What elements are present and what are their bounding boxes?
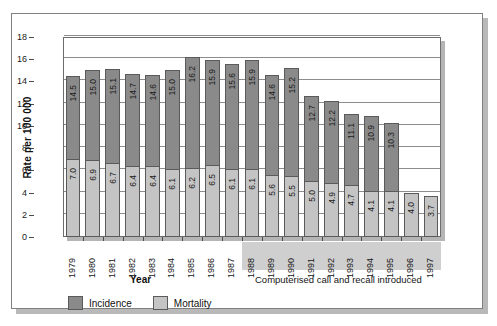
bar-mortality: 4.1	[384, 191, 399, 237]
legend-label: Mortality	[174, 298, 212, 309]
x-tick-mark	[123, 237, 124, 241]
bar-value-label: 6.2	[187, 177, 197, 189]
bar-group: 4.0	[404, 37, 419, 237]
x-tick-mark	[242, 237, 243, 241]
bar-value-label: 15.0	[88, 79, 98, 96]
bar-value-label: 11.1	[346, 123, 356, 139]
bar-value-label: 6.4	[148, 175, 158, 187]
bar-value-label: 4.1	[386, 200, 396, 212]
bar-group: 14.66.4	[145, 37, 160, 237]
bar-group: 15.96.5	[205, 37, 220, 237]
bar-mortality: 6.4	[145, 166, 160, 237]
bar-mortality: 6.9	[85, 160, 100, 237]
legend-swatch	[153, 296, 168, 310]
bar-mortality: 6.7	[105, 163, 120, 237]
bar-mortality: 4.7	[344, 185, 359, 237]
x-tick-mark	[421, 237, 422, 241]
bar-mortality: 6.1	[165, 169, 180, 237]
gridline	[64, 35, 440, 36]
x-tick-mark	[182, 237, 183, 241]
bar-value-label: 16.2	[187, 66, 197, 83]
x-tick-mark	[322, 237, 323, 241]
x-tick-mark	[342, 237, 343, 241]
bar-value-label: 14.7	[128, 83, 138, 100]
x-tick-mark	[83, 237, 84, 241]
bar-group: 14.65.6	[265, 37, 280, 237]
bar-mortality: 6.1	[225, 169, 240, 237]
bar-group: 14.57.0	[66, 37, 81, 237]
bar-value-label: 3.7	[426, 205, 436, 217]
x-tick-mark	[282, 237, 283, 241]
legend-item: Mortality	[153, 296, 212, 310]
bar-value-label: 14.6	[148, 84, 158, 101]
bar-mortality: 6.5	[205, 165, 220, 237]
bar-group: 15.25.5	[284, 37, 299, 237]
bar-value-label: 6.1	[167, 178, 177, 190]
bar-value-label: 15.0	[167, 79, 177, 96]
legend-label: Incidence	[89, 298, 132, 309]
bar-value-label: 15.2	[287, 77, 297, 94]
x-tick-label: 1986	[206, 258, 216, 278]
bar-value-label: 12.2	[327, 110, 337, 127]
x-tick-mark	[162, 237, 163, 241]
bar-value-label: 14.6	[267, 84, 277, 101]
bar-group: 12.24.9	[324, 37, 339, 237]
x-tick-mark	[401, 237, 402, 241]
x-tick-label: 1981	[107, 258, 117, 278]
x-axis-title: Year	[130, 274, 151, 285]
bar-value-label: 6.9	[88, 169, 98, 181]
computerised-call-annotation: Computerised call and recall introduced	[255, 274, 422, 285]
x-tick-label: 1985	[186, 258, 196, 278]
bar-group: 15.96.1	[245, 37, 260, 237]
bar-value-label: 14.5	[68, 85, 78, 102]
bar-mortality: 5.0	[304, 181, 319, 237]
x-tick-label: 1984	[166, 258, 176, 278]
bar-group: 15.06.1	[165, 37, 180, 237]
bar-mortality: 6.1	[245, 169, 260, 237]
bar-mortality: 6.4	[125, 166, 140, 237]
bar-group: 14.76.4	[125, 37, 140, 237]
x-tick-label: 1980	[87, 258, 97, 278]
legend-item: Incidence	[68, 296, 132, 310]
x-tick-label: 1987	[226, 258, 236, 278]
bar-value-label: 5.5	[287, 185, 297, 197]
bar-value-label: 10.3	[386, 132, 396, 149]
bar-value-label: 4.1	[366, 200, 376, 212]
bar-value-label: 15.9	[247, 69, 257, 86]
figure-frame: 024681012141618 Rate per 100 000 14.57.0…	[11, 13, 483, 309]
bar-value-label: 5.0	[307, 190, 317, 202]
bar-mortality: 4.9	[324, 183, 339, 237]
bar-mortality: 3.7	[424, 196, 439, 237]
x-tick-mark	[143, 237, 144, 241]
bar-mortality: 5.5	[284, 176, 299, 237]
x-tick-mark	[381, 237, 382, 241]
bar-mortality: 6.2	[185, 168, 200, 237]
x-axis-ticks	[63, 237, 441, 241]
bar-value-label: 4.9	[327, 192, 337, 204]
bar-value-label: 6.7	[108, 172, 118, 184]
bar-value-label: 5.6	[267, 184, 277, 196]
bar-group: 15.16.7	[105, 37, 120, 237]
bar-value-label: 10.9	[366, 125, 376, 142]
y-tick-mark	[29, 237, 34, 238]
bar-mortality: 5.6	[265, 175, 280, 237]
bar-value-label: 6.1	[227, 178, 237, 190]
chart-legend: IncidenceMortality	[68, 296, 226, 310]
bar-value-label: 12.7	[307, 105, 317, 122]
bar-group: 12.75.0	[304, 37, 319, 237]
x-tick-mark	[103, 237, 104, 241]
bar-value-label: 7.0	[68, 168, 78, 180]
x-tick-mark	[222, 237, 223, 241]
bar-value-label: 15.1	[108, 78, 118, 95]
bar-value-label: 4.0	[406, 202, 416, 214]
y-axis-title-label: Rate per 100 000	[22, 96, 33, 178]
bar-mortality: 7.0	[66, 159, 81, 237]
legend-swatch	[68, 296, 83, 310]
bar-value-label: 15.9	[207, 69, 217, 86]
x-tick-mark	[262, 237, 263, 241]
bar-group: 15.06.9	[85, 37, 100, 237]
y-axis-title: Rate per 100 000	[20, 37, 34, 237]
x-axis-labels: 1979198019811982198319841985198619871988…	[63, 242, 441, 270]
x-tick-label: 1997	[425, 258, 435, 278]
bar-value-label: 6.5	[207, 174, 217, 186]
